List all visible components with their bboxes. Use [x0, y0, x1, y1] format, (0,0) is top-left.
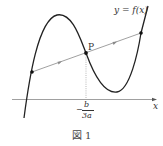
- curve-label: y = f(x): [114, 6, 148, 15]
- tick-numerator: b: [84, 100, 89, 109]
- left-intersection-point: [30, 70, 34, 74]
- point-p-label: P: [88, 43, 94, 52]
- figure-caption: 図 1: [0, 127, 163, 142]
- tick-denominator: 3a: [82, 111, 92, 120]
- secant-arrow-right-icon: [113, 42, 118, 45]
- cubic-graph: [0, 0, 163, 146]
- right-intersection-point: [139, 31, 143, 35]
- x-axis-label: x: [153, 102, 158, 111]
- secant-arrow-left-icon: [58, 61, 63, 64]
